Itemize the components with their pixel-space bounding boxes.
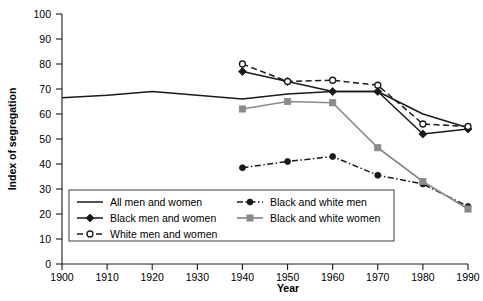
chart-legend: All men and womenBlack and white menBlac…: [69, 190, 394, 241]
data-point-marker: [247, 215, 253, 221]
legend-entry-label: White men and women: [110, 228, 218, 240]
data-point-marker: [285, 79, 291, 85]
data-point-marker: [375, 82, 381, 88]
series-line: [62, 92, 468, 128]
data-point-marker: [375, 145, 381, 151]
data-point-marker: [239, 106, 245, 112]
y-tick-label: 40: [39, 158, 51, 170]
series-all-men-and-women: [62, 92, 468, 128]
data-point-marker: [330, 100, 336, 106]
x-tick-label: 1940: [231, 271, 255, 283]
y-tick-label: 80: [39, 58, 51, 70]
data-point-marker: [87, 231, 93, 237]
data-point-marker: [285, 159, 291, 165]
x-tick-label: 1990: [456, 271, 480, 283]
y-axis-title: Index of segregation: [6, 88, 18, 191]
data-point-marker: [238, 68, 246, 76]
data-point-marker: [330, 77, 336, 83]
data-point-marker: [465, 206, 471, 212]
y-tick-label: 60: [39, 108, 51, 120]
legend-entry-label: Black and white women: [270, 212, 380, 224]
x-tick-label: 1960: [321, 271, 345, 283]
x-tick-label: 1900: [50, 271, 74, 283]
legend-entry-label: Black men and women: [110, 212, 216, 224]
x-tick-label: 1920: [141, 271, 165, 283]
data-point-marker: [239, 61, 245, 67]
x-tick-label: 1970: [366, 271, 390, 283]
y-tick-label: 100: [33, 8, 51, 20]
y-tick-label: 70: [39, 83, 51, 95]
y-tick-label: 30: [39, 183, 51, 195]
data-point-marker: [420, 121, 426, 127]
data-point-marker: [239, 165, 245, 171]
data-point-marker: [420, 178, 426, 184]
data-point-marker: [375, 172, 381, 178]
chart-canvas: 0102030405060708090100 19001910192019301…: [0, 0, 483, 301]
segregation-index-chart: 0102030405060708090100 19001910192019301…: [0, 0, 483, 301]
data-point-marker: [329, 88, 337, 96]
data-point-marker: [284, 98, 290, 104]
y-tick-label: 20: [39, 208, 51, 220]
y-tick-label: 50: [39, 133, 51, 145]
data-point-marker: [465, 124, 471, 130]
data-point-marker: [330, 154, 336, 160]
x-axis-title: Year: [277, 282, 299, 294]
data-series-group: [62, 61, 472, 212]
series-black-men-and-women: [238, 68, 472, 139]
y-axis-ticks: 0102030405060708090100: [33, 8, 62, 270]
y-tick-label: 10: [39, 233, 51, 245]
legend-entry-label: Black and white men: [270, 196, 367, 208]
x-axis-ticks: 1900191019201930194019501960197019801990: [50, 264, 480, 283]
legend-entry-label: All men and women: [110, 196, 202, 208]
data-point-marker: [247, 199, 253, 205]
y-tick-label: 90: [39, 33, 51, 45]
x-tick-label: 1980: [411, 271, 435, 283]
x-tick-label: 1930: [186, 271, 210, 283]
y-tick-label: 0: [45, 258, 51, 270]
x-tick-label: 1910: [95, 271, 119, 283]
